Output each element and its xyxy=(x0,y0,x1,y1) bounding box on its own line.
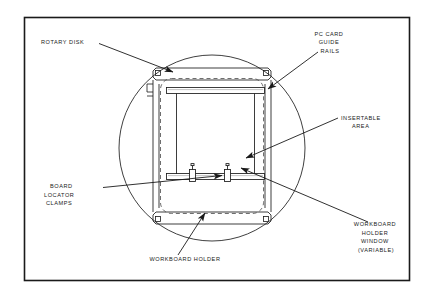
label-workboard-holder: WORKBOARD HOLDER xyxy=(150,256,221,262)
label-rotary-disk: ROTARY DISK xyxy=(41,39,84,45)
pc-card-guide-rail-top xyxy=(167,88,265,94)
diagram-canvas: ROTARY DISK PC CARD GUIDE RAILS INSERTAB… xyxy=(0,0,432,295)
technical-diagram: ROTARY DISK PC CARD GUIDE RAILS INSERTAB… xyxy=(0,0,432,295)
